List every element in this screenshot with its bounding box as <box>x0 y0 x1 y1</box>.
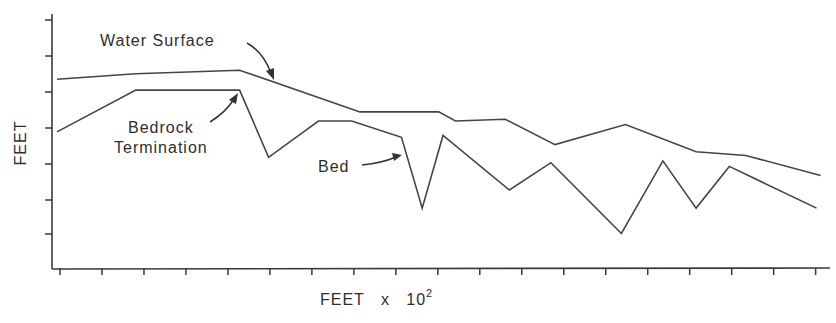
y-ticks <box>45 20 52 234</box>
river-profile-chart: Water Surface Bedrock Termination Bed FE… <box>0 0 836 323</box>
bedrock-label-line2: Termination <box>114 139 208 156</box>
bedrock-termination-annotation: Bedrock Termination <box>114 93 238 156</box>
water-surface-arrow-icon <box>247 43 271 73</box>
y-axis-title: FEET <box>12 121 29 166</box>
x-axis <box>52 268 830 269</box>
bedrock-label-line1: Bedrock <box>128 119 194 136</box>
bedrock-arrowhead-icon <box>229 93 238 104</box>
bed-arrowhead-icon <box>392 153 402 161</box>
bedrock-arrow-icon <box>210 99 234 122</box>
water-surface-arrowhead-icon <box>266 68 274 80</box>
water-surface-label: Water Surface <box>100 32 215 49</box>
bed-label: Bed <box>318 158 349 175</box>
x-axis-title-text: FEET x 10 <box>320 291 426 308</box>
bed-arrow-icon <box>362 157 396 165</box>
x-axis-exponent: 2 <box>426 287 433 299</box>
x-axis-title: FEET x 102 <box>320 287 433 308</box>
bed-annotation: Bed <box>318 153 402 175</box>
